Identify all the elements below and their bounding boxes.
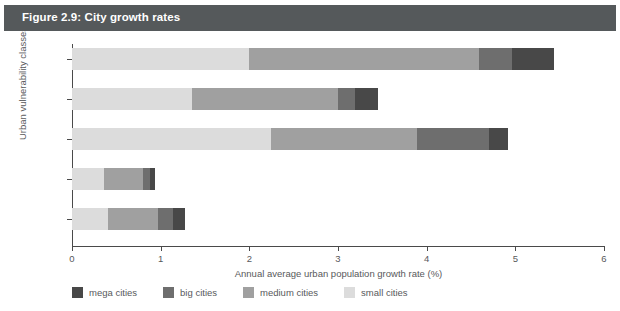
- bar-segment-big-cities[interactable]: [143, 168, 150, 190]
- chart-legend: mega citiesbig citiesmedium citiessmall …: [72, 287, 522, 301]
- x-axis-title: Annual average urban population growth r…: [72, 268, 605, 279]
- legend-item-small-cities[interactable]: small cities: [344, 287, 407, 298]
- bar-segment-medium-cities[interactable]: [249, 48, 479, 70]
- bar-low[interactable]: [72, 168, 155, 190]
- bar-segment-medium-cities[interactable]: [104, 168, 143, 190]
- bar-segment-small-cities[interactable]: [72, 128, 271, 150]
- bar-segment-mega-cities[interactable]: [489, 128, 509, 150]
- bar-segment-big-cities[interactable]: [338, 88, 355, 110]
- x-tick-label-6: 6: [589, 253, 619, 264]
- x-tick-mark: [604, 246, 605, 251]
- bar-segment-small-cities[interactable]: [72, 48, 249, 70]
- legend-swatch-mega-cities: [72, 287, 83, 298]
- y-axis-title: Urban vulnerability classes: [17, 14, 28, 154]
- bar-segment-medium-cities[interactable]: [108, 208, 158, 230]
- legend-label-big-cities: big cities: [180, 287, 217, 298]
- legend-item-big-cities[interactable]: big cities: [163, 287, 217, 298]
- bar-segment-small-cities[interactable]: [72, 168, 104, 190]
- figure-container: Figure 2.9: City growth rates Urban vuln…: [0, 0, 620, 311]
- x-tick-label-4: 4: [412, 253, 442, 264]
- x-tick-label-2: 2: [234, 253, 264, 264]
- legend-swatch-big-cities: [163, 287, 174, 298]
- bar-segment-mega-cities[interactable]: [173, 208, 185, 230]
- x-tick-label-1: 1: [146, 253, 176, 264]
- x-tick-mark: [338, 246, 339, 251]
- bar-segment-medium-cities[interactable]: [271, 128, 417, 150]
- legend-item-mega-cities[interactable]: mega cities: [72, 287, 137, 298]
- bar-high[interactable]: [72, 88, 378, 110]
- x-tick-mark: [515, 246, 516, 251]
- bar-segment-medium-cities[interactable]: [192, 88, 338, 110]
- bar-segment-small-cities[interactable]: [72, 88, 192, 110]
- bar-segment-mega-cities[interactable]: [512, 48, 555, 70]
- x-tick-mark: [72, 246, 73, 251]
- legend-swatch-small-cities: [344, 287, 355, 298]
- x-tick-mark: [249, 246, 250, 251]
- legend-swatch-medium-cities: [243, 287, 254, 298]
- x-tick-label-5: 5: [500, 253, 530, 264]
- bar-segment-mega-cities[interactable]: [355, 88, 378, 110]
- legend-label-small-cities: small cities: [361, 287, 407, 298]
- bar-segment-big-cities[interactable]: [479, 48, 512, 70]
- x-tick-mark: [427, 246, 428, 251]
- bar-segment-big-cities[interactable]: [158, 208, 173, 230]
- bar-very-low[interactable]: [72, 208, 185, 230]
- x-tick-mark: [161, 246, 162, 251]
- legend-item-medium-cities[interactable]: medium cities: [243, 287, 318, 298]
- bar-segment-small-cities[interactable]: [72, 208, 108, 230]
- bar-medium[interactable]: [72, 128, 508, 150]
- bar-very-high[interactable]: [72, 48, 554, 70]
- figure-title: Figure 2.9: City growth rates: [22, 11, 180, 23]
- x-tick-label-3: 3: [323, 253, 353, 264]
- x-tick-label-0: 0: [57, 253, 87, 264]
- figure-title-band: Figure 2.9: City growth rates: [4, 5, 616, 31]
- bar-segment-mega-cities[interactable]: [150, 168, 155, 190]
- bar-segment-big-cities[interactable]: [417, 128, 489, 150]
- legend-label-medium-cities: medium cities: [260, 287, 318, 298]
- legend-label-mega-cities: mega cities: [89, 287, 137, 298]
